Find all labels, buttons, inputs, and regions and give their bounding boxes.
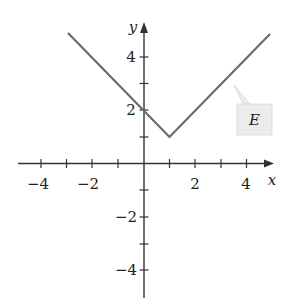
y-axis-label: y	[128, 18, 138, 36]
x-tick-label: 4	[241, 175, 251, 193]
x-tick-label: −4	[27, 175, 49, 193]
callout-label: E	[248, 111, 260, 129]
callout-e: E	[234, 85, 272, 135]
x-tick-label: 2	[190, 175, 200, 193]
y-tick-label: −4	[115, 261, 137, 279]
x-axis-arrow-icon	[264, 160, 274, 168]
x-axis: −4 −2 2 4 x	[18, 159, 277, 193]
y-axis-arrow-icon	[140, 22, 148, 33]
x-axis-label: x	[268, 171, 277, 189]
y-tick-label: −2	[115, 208, 137, 226]
y-tick-label: 4	[126, 48, 136, 66]
y-tick-label: 2	[126, 101, 136, 119]
chart: −4 −2 2 4 x 4 2 −2 −4 y E	[0, 0, 287, 305]
x-tick-label: −2	[77, 175, 99, 193]
y-axis: 4 2 −2 −4 y	[115, 18, 149, 298]
